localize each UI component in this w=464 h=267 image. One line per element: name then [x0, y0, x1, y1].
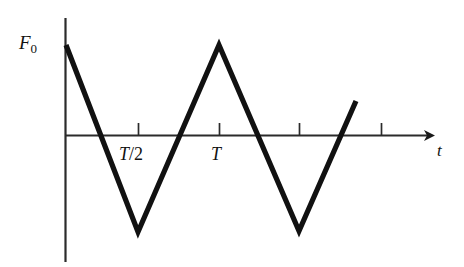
- tick-label-t: T: [211, 145, 221, 163]
- amplitude-symbol: F: [19, 32, 31, 53]
- plot-canvas: [0, 0, 464, 267]
- amplitude-label: F0: [19, 33, 37, 55]
- amplitude-subscript: 0: [31, 41, 38, 56]
- tick-label-t-half-divider: /2: [129, 144, 143, 164]
- waveform-curve: [66, 45, 356, 232]
- tick-label-t-half-symbol: T: [119, 144, 129, 164]
- waveform-figure: F0 T/2 T t: [0, 0, 464, 267]
- x-axis-label: t: [437, 142, 442, 159]
- tick-label-t-half: T/2: [119, 145, 143, 163]
